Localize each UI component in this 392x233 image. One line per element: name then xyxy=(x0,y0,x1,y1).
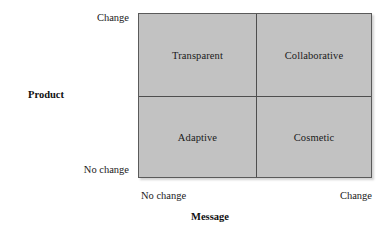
quadrant-top-left-label: Transparent xyxy=(172,50,223,61)
quadrant-top-right-label: Collaborative xyxy=(285,50,343,61)
quadrant-bottom-right-label: Cosmetic xyxy=(294,132,334,143)
y-axis-title: Product xyxy=(28,89,64,100)
y-axis-label-bottom: No change xyxy=(84,164,129,175)
quadrant-top-left: Transparent xyxy=(139,14,256,96)
x-axis-label-left: No change xyxy=(141,190,186,201)
two-by-two-matrix: Transparent Collaborative Adaptive Cosme… xyxy=(138,13,372,178)
x-axis-title-wrap: Message xyxy=(0,211,392,222)
x-axis-label-right: Change xyxy=(340,190,372,201)
quadrant-top-right: Collaborative xyxy=(257,14,371,96)
y-axis-label-top: Change xyxy=(97,12,129,23)
quadrant-bottom-right: Cosmetic xyxy=(257,97,371,177)
x-axis-title: Message xyxy=(191,211,229,222)
quadrant-bottom-left: Adaptive xyxy=(139,97,256,177)
diagram-canvas: Product Change No change Transparent Col… xyxy=(0,0,392,233)
horizontal-divider xyxy=(139,96,371,97)
quadrant-bottom-left-label: Adaptive xyxy=(178,132,217,143)
